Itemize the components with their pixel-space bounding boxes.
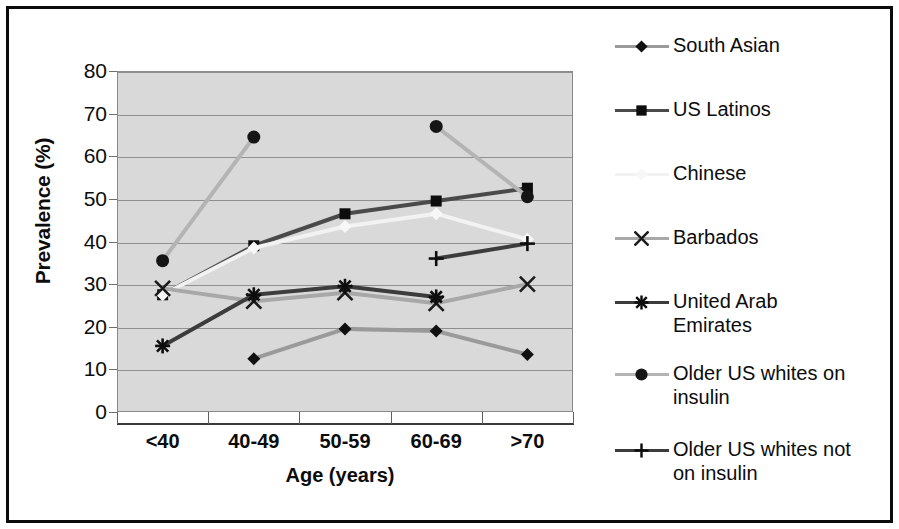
legend-label: United Arab Emirates (673, 289, 778, 337)
y-tick-label: 60 (55, 144, 107, 168)
y-axis-tick-labels: 01020304050607080 (47, 71, 107, 412)
series-0 (247, 322, 534, 365)
data-point-square (431, 196, 442, 207)
x-axis-title: Age (years) (105, 464, 575, 487)
y-tick-label: 80 (55, 59, 107, 83)
data-point-asterisk (246, 287, 261, 302)
data-point-square (340, 208, 351, 219)
legend-label: Barbados (673, 225, 759, 249)
data-point-diamond (247, 352, 260, 365)
legend-item-united-arab-emirates[interactable]: United Arab Emirates (613, 289, 778, 337)
legend-marker-diamond-icon (634, 167, 649, 182)
series-lines (117, 71, 573, 412)
figure-root: Prevalence (%) 01020304050607080 <4040-4… (0, 0, 899, 529)
legend-marker-plus-icon (634, 443, 649, 458)
data-point-circle (635, 368, 647, 380)
legend-marker-circle-icon (634, 367, 649, 382)
legend-item-south-asian[interactable]: South Asian (613, 33, 780, 57)
figure-border: Prevalence (%) 01020304050607080 <4040-4… (6, 6, 893, 523)
legend-swatch-square-icon (613, 99, 671, 121)
legend-item-chinese[interactable]: Chinese (613, 161, 746, 185)
legend-label: US Latinos (673, 97, 771, 121)
data-point-diamond (430, 325, 443, 338)
series-line (163, 137, 254, 261)
chart-area: Prevalence (%) 01020304050607080 <4040-4… (9, 9, 609, 526)
x-tick-mark (391, 412, 392, 424)
y-tick-label: 20 (55, 315, 107, 339)
data-point-circle (430, 120, 443, 133)
y-tick-label: 50 (55, 187, 107, 211)
data-point-plus (634, 443, 648, 457)
data-point-diamond (339, 322, 352, 335)
y-tick-label: 0 (55, 400, 107, 424)
legend-swatch-circle-icon (613, 363, 671, 385)
legend-marker-asterisk-icon (634, 295, 649, 310)
y-tick-label: 30 (55, 272, 107, 296)
series-line (436, 244, 527, 259)
legend-marker-x-icon (634, 231, 649, 246)
x-tick-mark (208, 412, 209, 424)
chart-legend: South AsianUS LatinosChineseBarbadosUnit… (613, 9, 896, 526)
legend-label: South Asian (673, 33, 780, 57)
legend-swatch-diamond-icon (613, 163, 671, 185)
y-tick-label: 70 (55, 102, 107, 126)
x-tick-label: >70 (472, 430, 582, 453)
data-point-asterisk (155, 338, 170, 353)
x-tick-mark (117, 412, 118, 424)
legend-swatch-plus-icon (613, 439, 671, 461)
data-point-diamond (339, 220, 352, 233)
data-point-square (636, 105, 646, 115)
x-tick-mark (299, 412, 300, 424)
data-point-asterisk (429, 289, 444, 304)
legend-marker-diamond-icon (634, 39, 649, 54)
y-tick-label: 40 (55, 230, 107, 254)
legend-item-barbados[interactable]: Barbados (613, 225, 759, 249)
data-point-diamond (430, 207, 443, 220)
legend-label: Older US whites not on insulin (673, 437, 851, 485)
legend-swatch-x-icon (613, 227, 671, 249)
data-point-asterisk (634, 295, 648, 309)
x-tick-mark (482, 412, 483, 424)
legend-item-us-latinos[interactable]: US Latinos (613, 97, 771, 121)
data-point-plus (429, 251, 444, 266)
legend-label: Chinese (673, 161, 746, 185)
legend-label: Older US whites on insulin (673, 361, 845, 409)
series-line (436, 126, 527, 196)
data-point-circle (247, 131, 260, 144)
legend-item-older-us-whites-on-insulin[interactable]: Older US whites on insulin (613, 361, 845, 409)
legend-swatch-asterisk-icon (613, 291, 671, 313)
data-point-diamond (635, 168, 647, 180)
legend-marker-square-icon (634, 103, 649, 118)
data-point-diamond (521, 348, 534, 361)
data-point-asterisk (338, 279, 353, 294)
series-6 (429, 236, 535, 266)
data-point-x (634, 231, 648, 245)
x-tick-mark (573, 412, 574, 424)
legend-swatch-diamond-icon (613, 35, 671, 57)
data-point-circle (156, 254, 169, 267)
y-tick-label: 10 (55, 357, 107, 381)
data-point-diamond (635, 40, 647, 52)
series-line (254, 329, 528, 359)
data-point-circle (521, 190, 534, 203)
x-axis-line (117, 423, 574, 425)
legend-item-older-us-whites-not-on-insulin[interactable]: Older US whites not on insulin (613, 437, 851, 485)
